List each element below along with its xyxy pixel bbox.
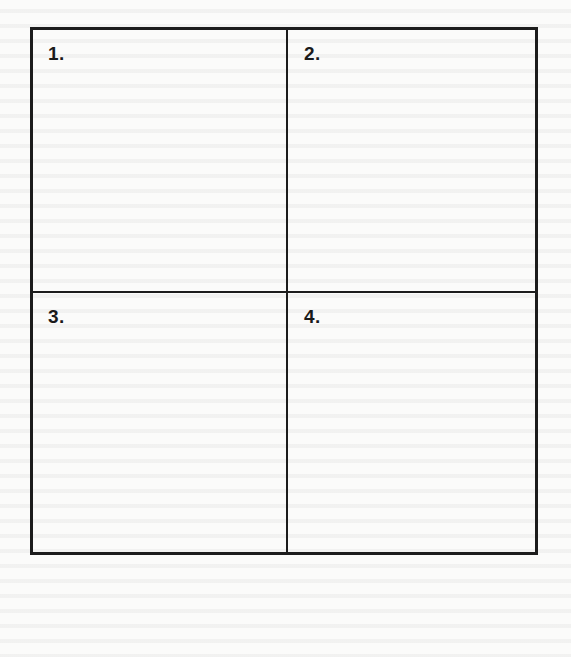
answer-box-3[interactable]: 3. [33, 293, 288, 552]
answer-grid: 1. 2. 3. 4. [30, 27, 538, 555]
box-number-label: 1. [48, 43, 65, 65]
answer-box-1[interactable]: 1. [33, 30, 288, 293]
answer-box-4[interactable]: 4. [288, 293, 535, 552]
box-number-label: 4. [304, 306, 321, 328]
box-number-label: 2. [304, 43, 321, 65]
answer-box-2[interactable]: 2. [288, 30, 535, 293]
box-number-label: 3. [48, 306, 65, 328]
